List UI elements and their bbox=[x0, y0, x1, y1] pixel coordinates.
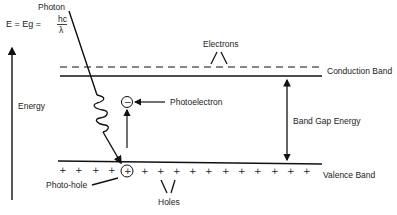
svg-text:+: + bbox=[271, 166, 279, 176]
photo-hole-label: Photo-hole bbox=[46, 180, 87, 190]
formula-lhs: E = Eg = bbox=[6, 19, 41, 29]
energy-axis: Energy bbox=[12, 48, 46, 200]
formula: E = Eg = hc λ bbox=[6, 14, 68, 35]
holes-pointer-left bbox=[161, 180, 167, 193]
svg-text:+: + bbox=[59, 165, 67, 175]
electrons-label: Electrons bbox=[203, 39, 238, 49]
svg-text:+: + bbox=[108, 165, 116, 175]
energy-label: Energy bbox=[18, 101, 46, 111]
svg-text:+: + bbox=[303, 166, 311, 176]
svg-text:+: + bbox=[157, 166, 165, 176]
formula-denominator: λ bbox=[59, 25, 64, 35]
formula-numerator: hc bbox=[58, 14, 68, 24]
svg-text:+: + bbox=[238, 166, 246, 176]
svg-text:+: + bbox=[222, 166, 230, 176]
band-gap-diagram: E = Eg = hc λ Photon Energy Conduction B… bbox=[0, 0, 397, 215]
photoelectron-label: Photoelectron bbox=[170, 97, 223, 107]
band-gap-energy: Band Gap Energy bbox=[287, 80, 361, 160]
valence-band-label: Valence Band bbox=[323, 170, 376, 180]
valence-band-line bbox=[58, 161, 322, 164]
holes-label: Holes bbox=[158, 197, 180, 207]
photon-path bbox=[69, 11, 121, 163]
svg-text:+: + bbox=[254, 166, 262, 176]
conduction-band-label: Conduction Band bbox=[327, 66, 392, 76]
electrons-pointer-left bbox=[211, 52, 217, 64]
holes-pointer-right bbox=[171, 180, 175, 193]
svg-text:+: + bbox=[173, 166, 181, 176]
electron-symbol: − bbox=[124, 97, 132, 107]
photon-label: Photon bbox=[38, 2, 65, 12]
svg-text:+: + bbox=[141, 166, 149, 176]
svg-text:+: + bbox=[205, 166, 213, 176]
holes-row: + + + + + + + + + + + + + + + bbox=[59, 165, 311, 176]
photoelectron: − Photoelectron bbox=[122, 97, 223, 149]
photo-hole-symbol: + bbox=[124, 166, 132, 176]
svg-text:+: + bbox=[75, 165, 83, 175]
svg-text:+: + bbox=[287, 166, 295, 176]
electrons-pointer-right bbox=[221, 52, 227, 64]
svg-text:+: + bbox=[92, 165, 100, 175]
band-gap-label: Band Gap Energy bbox=[293, 116, 361, 126]
svg-text:+: + bbox=[189, 166, 197, 176]
photo-hole-pointer bbox=[92, 178, 118, 185]
